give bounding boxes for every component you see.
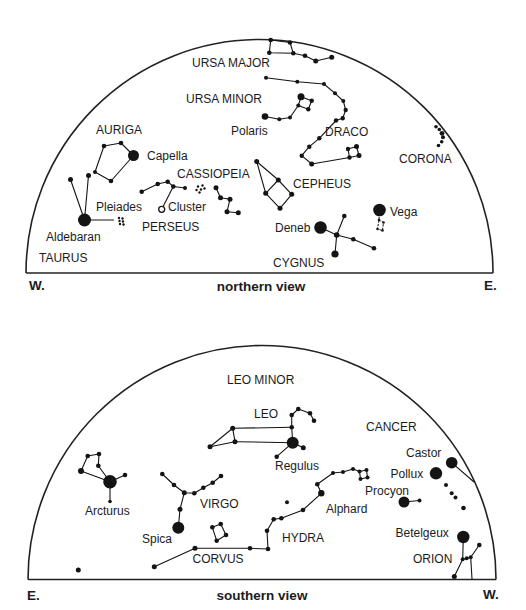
constellation-line bbox=[265, 97, 312, 120]
star bbox=[469, 555, 473, 559]
star bbox=[268, 38, 273, 43]
constellation-double-cluster bbox=[195, 184, 205, 193]
star bbox=[358, 470, 362, 474]
label-pleiades: Pleiades bbox=[96, 200, 142, 214]
label-virgo: VIRGO bbox=[200, 497, 239, 511]
star bbox=[434, 125, 438, 129]
star bbox=[446, 457, 458, 469]
southern-corner-left: E. bbox=[27, 588, 40, 603]
star bbox=[210, 525, 215, 530]
star bbox=[277, 117, 281, 121]
star bbox=[178, 507, 183, 512]
star bbox=[121, 217, 123, 219]
star bbox=[288, 116, 292, 120]
southern-caption: southern view bbox=[217, 588, 308, 603]
northern-corner-left: W. bbox=[29, 278, 45, 293]
constellation-line bbox=[257, 162, 279, 194]
star bbox=[342, 214, 347, 219]
star bbox=[285, 500, 289, 504]
star bbox=[78, 214, 91, 227]
label-betelgeux: Betelgeux bbox=[396, 526, 449, 540]
star bbox=[152, 564, 157, 569]
star bbox=[225, 209, 230, 214]
label-cluster: Cluster bbox=[168, 200, 206, 214]
star bbox=[218, 522, 223, 527]
star bbox=[263, 191, 268, 196]
star bbox=[301, 508, 306, 513]
star-chart: URSA MAJORURSA MINORAURIGAPolarisDRACOCO… bbox=[0, 0, 526, 610]
constellation-field-stars bbox=[76, 568, 81, 573]
constellation-cassiopeia bbox=[214, 185, 241, 215]
star bbox=[308, 411, 313, 416]
star bbox=[376, 228, 379, 231]
label-cassiopeia: CASSIOPEIA bbox=[177, 167, 250, 181]
star bbox=[318, 490, 324, 496]
star bbox=[378, 219, 381, 222]
star bbox=[183, 186, 187, 190]
constellation-line bbox=[95, 143, 134, 181]
star bbox=[195, 189, 197, 191]
star bbox=[123, 473, 128, 478]
star bbox=[341, 99, 345, 103]
constellation-line bbox=[235, 442, 293, 443]
star bbox=[265, 528, 270, 533]
label-ursa-major: URSA MAJOR bbox=[192, 56, 270, 70]
star bbox=[351, 467, 355, 471]
star bbox=[103, 475, 117, 489]
label-polaris: Polaris bbox=[231, 124, 268, 138]
constellation-line bbox=[293, 53, 331, 61]
label-leo: LEO bbox=[254, 407, 278, 421]
star bbox=[97, 452, 102, 457]
star bbox=[454, 496, 458, 500]
star bbox=[254, 159, 259, 164]
label-corvus: CORVUS bbox=[193, 552, 244, 566]
star bbox=[399, 497, 410, 508]
star bbox=[306, 107, 310, 111]
star bbox=[346, 147, 350, 151]
star bbox=[344, 108, 348, 112]
star bbox=[291, 51, 296, 56]
star bbox=[224, 533, 229, 538]
constellation-line bbox=[216, 188, 238, 213]
star bbox=[289, 425, 294, 430]
star bbox=[85, 454, 90, 459]
star bbox=[457, 531, 469, 543]
star bbox=[122, 223, 124, 225]
star bbox=[317, 136, 321, 140]
star bbox=[236, 210, 241, 215]
star bbox=[262, 113, 269, 120]
label-capella: Capella bbox=[147, 149, 188, 163]
star bbox=[193, 546, 198, 551]
star bbox=[208, 444, 213, 449]
star bbox=[365, 468, 369, 472]
star bbox=[331, 250, 338, 257]
label-procyon: Procyon bbox=[365, 484, 409, 498]
constellation-line bbox=[210, 428, 235, 446]
constellation-bootes bbox=[78, 452, 127, 504]
star bbox=[322, 82, 326, 86]
star bbox=[450, 491, 454, 495]
star bbox=[122, 220, 124, 222]
star bbox=[214, 538, 219, 543]
constellation-line bbox=[233, 427, 292, 428]
star bbox=[366, 476, 370, 480]
star bbox=[333, 91, 337, 95]
star bbox=[437, 144, 441, 148]
star bbox=[461, 506, 466, 511]
star bbox=[118, 217, 120, 219]
star bbox=[201, 485, 206, 490]
northern-caption: northern view bbox=[217, 279, 306, 294]
star bbox=[230, 426, 235, 431]
star bbox=[128, 150, 139, 161]
star bbox=[271, 517, 276, 522]
constellation-line bbox=[337, 235, 374, 248]
star bbox=[444, 483, 448, 487]
southern-view-panel: LEO MINORLEOCANCERCastorRegulusPolluxPro… bbox=[27, 346, 499, 604]
star bbox=[418, 499, 422, 503]
star bbox=[264, 76, 268, 80]
star bbox=[382, 221, 385, 224]
star bbox=[109, 179, 114, 184]
star bbox=[312, 418, 317, 423]
label-ursa-minor: URSA MINOR bbox=[186, 92, 262, 106]
label-corona: CORONA bbox=[399, 152, 452, 166]
